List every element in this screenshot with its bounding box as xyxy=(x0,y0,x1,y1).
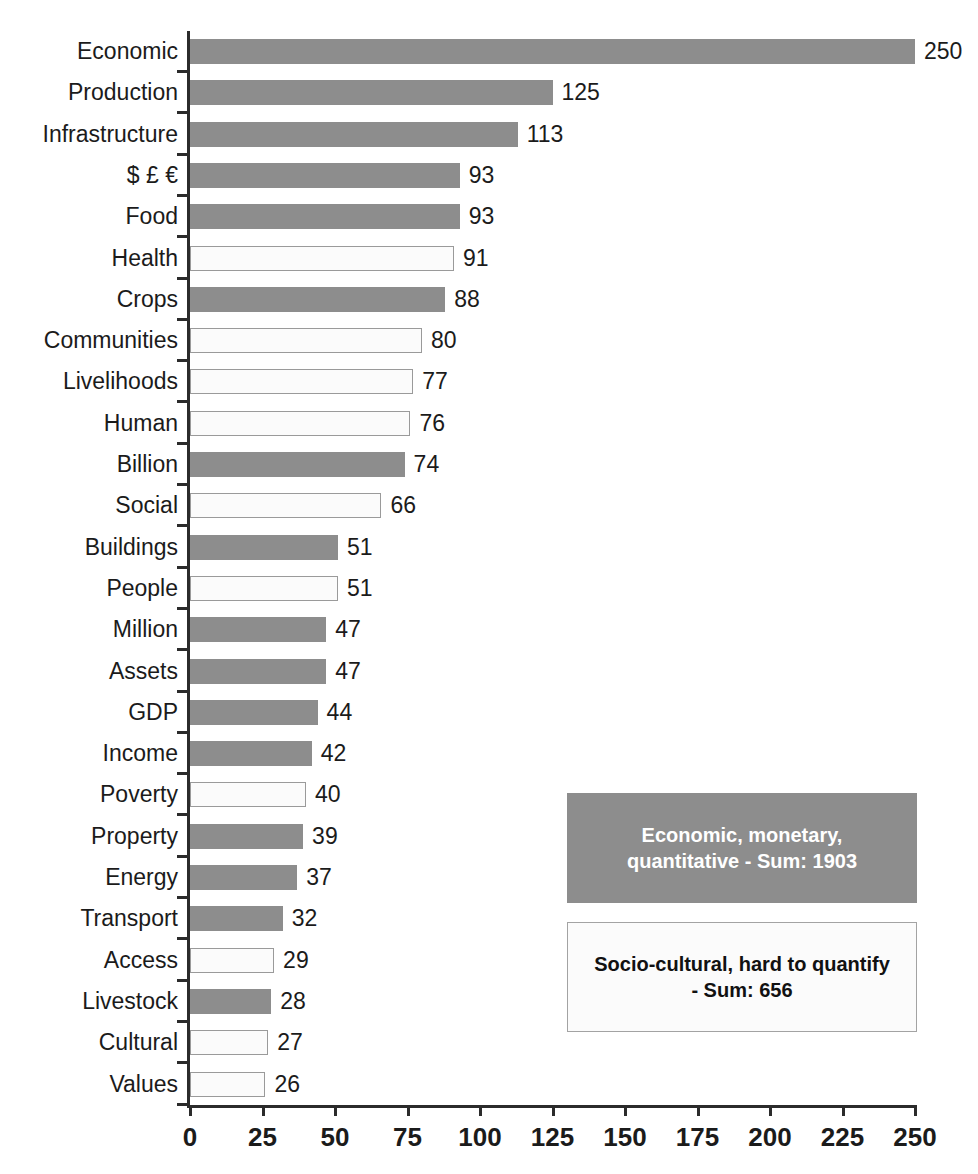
bar-value-label: 47 xyxy=(335,651,361,692)
bar-value-label: 42 xyxy=(321,733,347,774)
bar-value-label: 44 xyxy=(327,692,353,733)
x-axis-tick xyxy=(407,1105,410,1116)
bar-value-label: 76 xyxy=(419,403,445,444)
category-label-health: Health xyxy=(112,238,178,279)
bar[interactable] xyxy=(190,535,338,560)
x-axis-tick-label: 250 xyxy=(893,1122,936,1153)
category-label-infrastructure: Infrastructure xyxy=(43,114,179,155)
legend-socio-text: Socio-cultural, hard to quantify- Sum: 6… xyxy=(594,951,890,1004)
category-label-social: Social xyxy=(115,485,178,526)
category-label-communities: Communities xyxy=(44,320,178,361)
bar[interactable] xyxy=(190,287,445,312)
bar-value-label: 250 xyxy=(924,31,962,72)
bar[interactable] xyxy=(190,865,297,890)
bar[interactable] xyxy=(190,493,381,518)
legend-item-economic: Economic, monetary,quantitative - Sum: 1… xyxy=(567,793,917,903)
bar[interactable] xyxy=(190,617,326,642)
category-label-livelihoods: Livelihoods xyxy=(63,361,178,402)
x-axis-tick xyxy=(842,1105,845,1116)
bar-value-label: 40 xyxy=(315,774,341,815)
category-label-assets: Assets xyxy=(109,651,178,692)
bar-value-label: 80 xyxy=(431,320,457,361)
bar[interactable] xyxy=(190,576,338,601)
legend-economic-text: Economic, monetary,quantitative - Sum: 1… xyxy=(627,822,857,875)
x-axis-tick xyxy=(769,1105,772,1116)
bar-value-label: 93 xyxy=(469,196,495,237)
category-label-transport: Transport xyxy=(80,898,178,939)
bar-row: Income42 xyxy=(0,733,978,774)
y-axis-tick xyxy=(177,1103,188,1106)
bar[interactable] xyxy=(190,824,303,849)
category-label-crops: Crops xyxy=(117,279,178,320)
chart-page: Economic250Production125Infrastructure11… xyxy=(0,0,978,1174)
x-axis-tick xyxy=(914,1105,917,1116)
bar-row: Values26 xyxy=(0,1064,978,1105)
bar[interactable] xyxy=(190,369,413,394)
bar[interactable] xyxy=(190,163,460,188)
bar[interactable] xyxy=(190,1030,268,1055)
category-label-buildings: Buildings xyxy=(85,527,178,568)
bar[interactable] xyxy=(190,39,915,64)
bar[interactable] xyxy=(190,452,405,477)
category-label-million: Million xyxy=(113,609,178,650)
bar[interactable] xyxy=(190,328,422,353)
bar-value-label: 113 xyxy=(527,114,564,155)
category-label-income: Income xyxy=(103,733,178,774)
category-label-values: Values xyxy=(109,1064,178,1105)
bar-row: Human76 xyxy=(0,403,978,444)
x-axis-tick xyxy=(262,1105,265,1116)
bar[interactable] xyxy=(190,741,312,766)
bar-value-label: 88 xyxy=(454,279,480,320)
bar-row: Assets47 xyxy=(0,651,978,692)
x-axis-tick-label: 150 xyxy=(603,1122,646,1153)
category-label-cultural: Cultural xyxy=(99,1022,178,1063)
bar[interactable] xyxy=(190,122,518,147)
bar-value-label: 39 xyxy=(312,816,338,857)
category-label-poverty: Poverty xyxy=(100,774,178,815)
bar[interactable] xyxy=(190,1072,265,1097)
bar[interactable] xyxy=(190,989,271,1014)
bar[interactable] xyxy=(190,411,410,436)
bar-value-label: 47 xyxy=(335,609,361,650)
category-label-energy: Energy xyxy=(105,857,178,898)
category-label-production: Production xyxy=(68,72,178,113)
bar-row: Crops88 xyxy=(0,279,978,320)
bar-value-label: 29 xyxy=(283,940,309,981)
x-axis-tick-label: 175 xyxy=(676,1122,719,1153)
bar[interactable] xyxy=(190,948,274,973)
category-label-property: Property xyxy=(91,816,178,857)
bar-value-label: 32 xyxy=(292,898,318,939)
x-axis-tick-label: 225 xyxy=(821,1122,864,1153)
bar-row: Food93 xyxy=(0,196,978,237)
bar-row: Buildings51 xyxy=(0,527,978,568)
bar-row: Production125 xyxy=(0,72,978,113)
category-label-food: Food xyxy=(126,196,178,237)
x-axis-tick-label: 25 xyxy=(248,1122,277,1153)
category-label-livestock: Livestock xyxy=(82,981,178,1022)
bar[interactable] xyxy=(190,204,460,229)
x-axis-tick xyxy=(624,1105,627,1116)
bar-value-label: 125 xyxy=(562,72,600,113)
bar-row: Livelihoods77 xyxy=(0,361,978,402)
bar[interactable] xyxy=(190,700,318,725)
bar-value-label: 66 xyxy=(390,485,416,526)
bar[interactable] xyxy=(190,246,454,271)
bar-chart-plot-area: Economic250Production125Infrastructure11… xyxy=(0,0,978,1174)
bar-row: Social66 xyxy=(0,485,978,526)
x-axis-tick xyxy=(479,1105,482,1116)
bar[interactable] xyxy=(190,782,306,807)
x-axis-tick-label: 100 xyxy=(458,1122,501,1153)
bar[interactable] xyxy=(190,906,283,931)
category-label-people: People xyxy=(106,568,178,609)
legend-item-socio-cultural: Socio-cultural, hard to quantify- Sum: 6… xyxy=(567,922,917,1032)
x-axis-tick xyxy=(334,1105,337,1116)
bar[interactable] xyxy=(190,80,553,105)
bar-row: Million47 xyxy=(0,609,978,650)
bar-value-label: 27 xyxy=(277,1022,303,1063)
bar-row: People51 xyxy=(0,568,978,609)
bar-value-label: 51 xyxy=(347,568,373,609)
x-axis-tick-label: 125 xyxy=(531,1122,574,1153)
x-axis-tick xyxy=(552,1105,555,1116)
bar[interactable] xyxy=(190,659,326,684)
category-label-human: Human xyxy=(104,403,178,444)
